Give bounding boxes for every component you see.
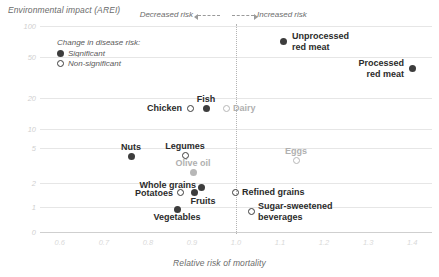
x-tick-0.7: 0.7 [99,238,109,247]
point-label-unprocessed-red-meat: Unprocessed red meat [292,31,349,52]
point-nuts[interactable] [128,153,135,160]
y-tick-10: 10 [28,125,36,134]
point-chicken[interactable] [187,105,194,112]
point-fruits[interactable] [191,189,198,196]
point-whole-grains[interactable] [198,184,205,191]
x-axis-title: Relative risk of mortality [0,258,439,268]
point-potatoes[interactable] [177,189,184,196]
y-tick-100: 100 [23,22,36,31]
point-label-refined-grains: Refined grains [242,187,305,197]
y-tick-50: 50 [28,53,36,62]
point-label-potatoes: Potatoes [135,188,173,198]
point-label-processed-red-meat: Processed red meat [358,58,404,79]
point-sugar-sweetened-beverages[interactable] [248,208,255,215]
x-tick-0.6: 0.6 [55,238,65,247]
decreased-risk-arrow [198,15,220,16]
scatter-chart: Environmental impact (AREI) Decreased ri… [0,0,439,277]
y-tick-5: 5 [32,144,36,153]
x-tick-1.3: 1.3 [363,238,373,247]
y-tick-20: 20 [28,94,36,103]
x-tick-1.1: 1.1 [275,238,285,247]
point-olive-oil[interactable] [190,169,197,176]
point-label-sugar-sweetened-beverages: Sugar-sweetened beverages [258,201,333,222]
point-fish[interactable] [203,105,210,112]
y-tick-2: 2 [32,179,36,188]
reference-line-x1 [236,24,237,234]
point-label-nuts: Nuts [121,142,141,152]
risk-direction-annotation: Decreased risk Increased risk [0,10,439,22]
point-refined-grains[interactable] [232,189,239,196]
y-tick-1: 1 [32,203,36,212]
point-label-chicken: Chicken [147,103,182,113]
point-label-vegetables: Vegetables [153,212,200,222]
point-eggs[interactable] [293,157,300,164]
x-tick-1.4: 1.4 [407,238,417,247]
point-label-dairy: Dairy [233,103,256,113]
point-label-fruits: Fruits [190,196,215,206]
point-label-legumes: Legumes [165,141,205,151]
y-tick-0: 0 [32,228,36,237]
increased-risk-arrow [232,15,254,16]
x-tick-0.9: 0.9 [187,238,197,247]
x-tick-1.0: 1.0 [231,238,241,247]
point-label-olive-oil: Olive oil [175,158,210,168]
plot-area: 1005020105210 0.60.70.80.91.01.11.21.31.… [40,24,432,234]
point-processed-red-meat[interactable] [409,65,416,72]
point-dairy[interactable] [223,105,230,112]
decreased-risk-label: Decreased risk [140,10,193,19]
x-tick-0.8: 0.8 [143,238,153,247]
point-label-fish: Fish [197,94,216,104]
x-tick-1.2: 1.2 [319,238,329,247]
point-label-eggs: Eggs [285,146,307,156]
point-unprocessed-red-meat[interactable] [280,38,287,45]
increased-risk-label: Increased risk [257,10,307,19]
